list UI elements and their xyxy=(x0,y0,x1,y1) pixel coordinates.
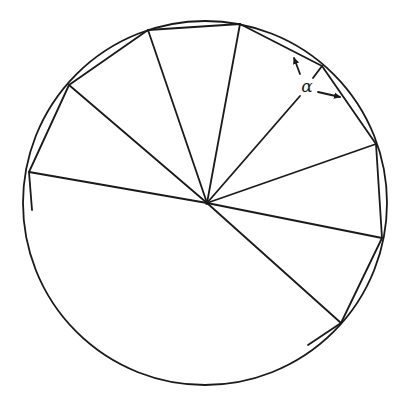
angle-alpha-label: α xyxy=(301,78,312,95)
angle-arrow-icon-1 xyxy=(318,92,340,97)
spoke-5 xyxy=(313,66,322,78)
spoke-3 xyxy=(207,24,240,203)
hub-point xyxy=(205,201,209,205)
geometry-diagram xyxy=(0,0,408,401)
spoke-8 xyxy=(207,203,341,323)
inscribed-polygon-chords xyxy=(29,24,382,345)
angle-arrow-icon-0 xyxy=(294,58,300,74)
spoke-0 xyxy=(29,172,207,203)
spoke-7 xyxy=(207,203,382,238)
